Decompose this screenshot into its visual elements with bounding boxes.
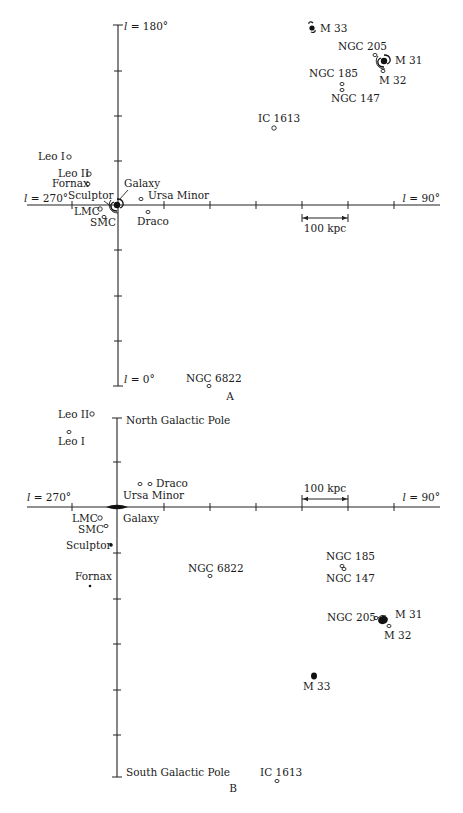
galaxy-m-32: M 32	[379, 69, 406, 86]
leo-ii-icon	[90, 412, 94, 416]
galaxy-label: SMC	[78, 523, 104, 535]
galaxy-ngc-205: NGC 205	[327, 611, 378, 623]
galaxy-ngc-185: NGC 185	[326, 550, 375, 568]
lmc-icon	[98, 516, 102, 520]
galaxy-ngc-6822: NGC 6822	[186, 372, 242, 388]
galaxy-ursa-minor: Ursa Minor	[139, 189, 210, 201]
galaxy-label: Sculptor	[66, 539, 112, 551]
m-33-icon	[311, 673, 317, 680]
ngc-205-icon	[373, 53, 377, 56]
galaxy-label: IC 1613	[260, 766, 302, 778]
draco-icon	[146, 210, 150, 213]
galaxy-sculptor: Sculptor	[66, 539, 113, 551]
axis-label-top: North Galactic Pole	[126, 414, 230, 426]
galaxy-ngc-185: NGC 185	[309, 67, 358, 86]
galaxy-label: NGC 6822	[186, 372, 242, 384]
galaxy-label: SMC	[90, 216, 116, 228]
galaxy-label: M 32	[384, 629, 411, 641]
ic-1613-icon	[275, 779, 279, 782]
galaxy-label: NGC 147	[331, 92, 380, 104]
galaxy-sculptor: Sculptor	[68, 189, 114, 201]
smc-icon	[104, 524, 108, 527]
m-31-icon	[376, 55, 390, 69]
fornax-icon	[89, 585, 92, 588]
galaxy-ngc-205: NGC 205	[338, 40, 387, 57]
galaxy-label: Ursa Minor	[148, 189, 210, 201]
galaxy-label: M 32	[379, 74, 406, 86]
ic-1613-icon	[272, 126, 276, 130]
local-group-diagram: l = 180°l = 0°l = 270°l = 90°100 kpcGala…	[0, 0, 463, 813]
galaxy-label: NGC 205	[338, 40, 387, 52]
panel-b-perpendicular-view: North Galactic PoleSouth Galactic Polel …	[27, 408, 440, 794]
galaxy-m-31: M 31	[376, 54, 422, 69]
galaxy-label: Draco	[156, 477, 188, 489]
leo-i-icon	[67, 430, 71, 433]
panel-caption: A	[225, 390, 234, 402]
scale-bar: 100 kpc	[302, 214, 348, 234]
galaxy-label: Ursa Minor	[123, 489, 185, 501]
axis-label-bottom: l = 0°	[124, 373, 155, 385]
galaxy-label: Leo I	[58, 435, 85, 447]
galaxy-ngc-6822: NGC 6822	[188, 562, 244, 578]
m-31-icon	[377, 615, 389, 626]
ngc-147-icon	[342, 567, 346, 570]
galaxy-label: NGC 185	[309, 67, 358, 79]
axis-label-left: l = 270°	[27, 491, 71, 503]
axis-label-top: l = 180°	[124, 20, 168, 32]
scale-bar-label: 100 kpc	[304, 482, 346, 494]
galaxy-ic-1613: IC 1613	[258, 112, 300, 130]
galaxy-fornax: Fornax	[52, 177, 90, 189]
galaxy-galaxy: Galaxy	[106, 505, 159, 524]
panel-caption: B	[229, 782, 237, 794]
galaxy-label: Galaxy	[123, 512, 159, 524]
galaxy-label: M 31	[395, 608, 422, 620]
galaxy-leo-ii: Leo II	[58, 408, 94, 420]
galaxy-label: Fornax	[52, 177, 89, 189]
galaxy-label: Draco	[137, 215, 169, 227]
m-33-icon	[309, 22, 315, 32]
galaxy-fornax: Fornax	[75, 570, 112, 587]
m-32-icon	[387, 624, 391, 627]
galaxy-label: NGC 6822	[188, 562, 244, 574]
galaxy-leo-i: Leo I	[58, 430, 85, 447]
ngc-6822-icon	[208, 574, 212, 577]
scale-bar: 100 kpc	[302, 482, 348, 503]
axis-label-left: l = 270°	[24, 192, 68, 204]
galaxy-m-33: M 33	[309, 22, 348, 34]
galaxy-smc: SMC	[90, 215, 116, 228]
panel-a-galactic-plane-view: l = 180°l = 0°l = 270°l = 90°100 kpcGala…	[24, 20, 440, 402]
galaxy-draco: Draco	[137, 210, 169, 227]
galaxy-m-31: M 31	[377, 608, 423, 625]
galaxy-label: M 33	[303, 680, 330, 692]
galaxy-leo-i: Leo I	[38, 150, 71, 162]
galaxy-label: NGC 147	[326, 572, 375, 584]
galaxy-ic-1613: IC 1613	[260, 766, 302, 783]
galaxy-ngc-147: NGC 147	[326, 567, 375, 584]
ursa-minor-icon	[139, 197, 143, 200]
leo-i-icon	[67, 155, 71, 159]
ngc-6822-icon	[207, 384, 211, 387]
galaxy-icon	[106, 505, 128, 510]
galaxy-label: Leo II	[58, 408, 89, 420]
ngc-185-icon	[340, 82, 344, 85]
galaxy-label: M 31	[395, 54, 422, 66]
m-32-icon	[381, 69, 385, 72]
galaxy-label: Fornax	[75, 570, 112, 582]
galaxy-label: Galaxy	[124, 177, 160, 189]
scale-bar-label: 100 kpc	[304, 222, 346, 234]
galaxy-label: NGC 205	[327, 611, 376, 623]
axis-label-right: l = 90°	[403, 491, 440, 503]
galaxy-label: Sculptor	[68, 189, 114, 201]
galaxy-label: M 33	[320, 22, 347, 34]
draco-icon	[148, 482, 152, 485]
ursa-minor-icon	[138, 482, 142, 485]
galaxy-label: IC 1613	[258, 112, 300, 124]
galaxy-label: Leo I	[38, 150, 65, 162]
galaxy-m-32: M 32	[384, 624, 411, 641]
axis-label-bottom: South Galactic Pole	[126, 766, 230, 778]
axis-label-right: l = 90°	[403, 192, 440, 204]
galaxy-m-33: M 33	[303, 673, 330, 692]
galaxy-smc: SMC	[78, 523, 108, 535]
galaxy-draco: Draco	[148, 477, 188, 489]
galaxy-ngc-147: NGC 147	[331, 88, 380, 104]
